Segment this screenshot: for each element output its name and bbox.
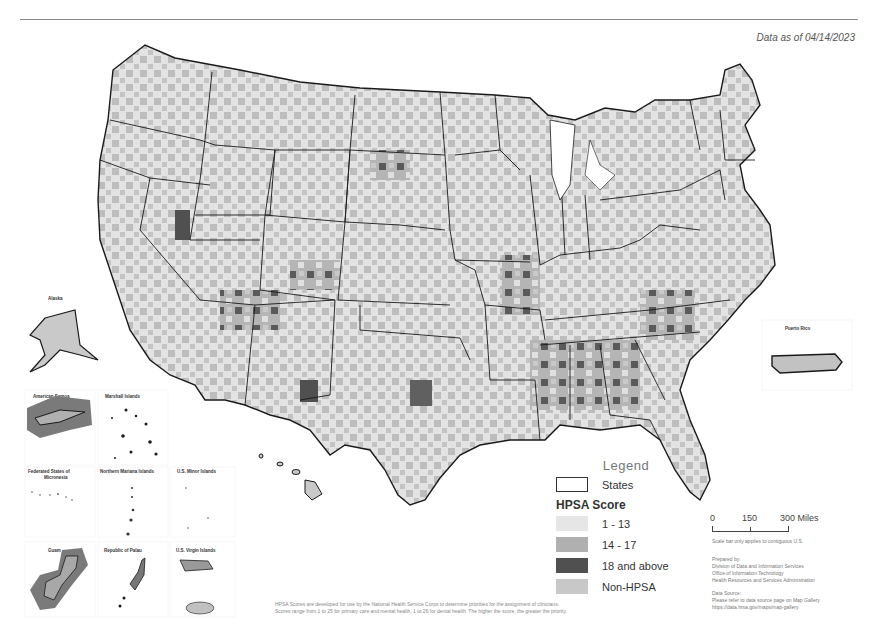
prepared-by-line: Division of Data and Information Service… (712, 563, 862, 570)
legend-swatch-low (556, 516, 588, 531)
prepared-by-line: Health Resources and Services Administra… (712, 577, 862, 584)
alaska-label: Alaska (48, 296, 63, 301)
hpsa-footnote: HPSA Scores are developed for use by the… (275, 601, 675, 615)
scale-tick-0: 0 (710, 513, 715, 523)
prepared-by-heading: Prepared by: (712, 556, 862, 563)
map-credits: Prepared by: Division of Data and Inform… (712, 556, 862, 617)
legend-title: Legend (566, 458, 686, 473)
legend-row-low: 1 - 13 (556, 514, 706, 533)
marshall-islands-label: Marshall Islands (105, 394, 141, 399)
legend-label-mid: 14 - 17 (602, 539, 636, 551)
contiguous-us (98, 45, 775, 505)
scale-tick-end: 300 Miles (780, 513, 819, 523)
map-legend: Legend States HPSA Score 1 - 13 14 - 17 … (556, 458, 706, 596)
footnote-line: Scores range from 1 to 25 for primary ca… (275, 608, 675, 615)
hawaii-inset (259, 454, 322, 500)
prepared-by-line: Office of Information Technology (712, 570, 862, 577)
legend-swatch-non-hpsa (556, 579, 588, 594)
alaska-inset: Alaska (30, 296, 98, 372)
states-swatch (556, 477, 588, 492)
scale-tick-mid: 150 (742, 513, 757, 523)
scale-note: Scale bar only applies to contiguous U.S… (712, 538, 832, 544)
legend-row-states: States (556, 475, 706, 494)
guam-label: Guam (48, 548, 61, 553)
legend-swatch-high (556, 558, 588, 573)
scale-bar-line (712, 526, 789, 532)
micronesia-label: Federated States of (28, 469, 70, 474)
legend-label-non-hpsa: Non-HPSA (602, 581, 656, 593)
legend-label-high: 18 and above (602, 560, 669, 572)
data-source-line: Please refer to data source page on Map … (712, 597, 862, 604)
legend-row-mid: 14 - 17 (556, 535, 706, 554)
legend-row-non-hpsa: Non-HPSA (556, 577, 706, 596)
northern-mariana-label: Northern Mariana Islands (100, 469, 155, 474)
puerto-rico-label: Puerto Rico (785, 326, 811, 331)
legend-score-heading: HPSA Score (556, 498, 706, 512)
data-source-link[interactable]: https://data.hrsa.gov/maps/map-gallery (712, 604, 862, 611)
us-minor-islands-label: U.S. Minor Islands (177, 469, 217, 474)
legend-row-high: 18 and above (556, 556, 706, 575)
pacific-insets: American Samoa Marshall Islands Federate… (25, 390, 235, 617)
scale-bar: 0 150 300 Miles Scale bar only applies t… (712, 513, 832, 544)
legend-label-states: States (602, 479, 633, 491)
palau-label: Republic of Palau (104, 548, 142, 553)
legend-swatch-mid (556, 537, 588, 552)
micronesia-label-2: Micronesia (44, 475, 68, 480)
puerto-rico-inset: Puerto Rico (762, 320, 852, 390)
data-source-heading: Data Source: (712, 590, 862, 597)
legend-label-low: 1 - 13 (602, 518, 630, 530)
footnote-line: HPSA Scores are developed for use by the… (275, 601, 675, 608)
virgin-islands-label: U.S. Virgin Islands (176, 548, 216, 553)
